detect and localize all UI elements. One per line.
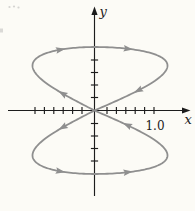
axis-lines-and-ticks — [8, 11, 184, 196]
scan-artifacts — [0, 5, 20, 32]
axes — [8, 7, 191, 197]
x-axis-label: x — [185, 112, 193, 127]
x-tick-label-1-0: 1.0 — [145, 119, 164, 133]
scan-dot — [8, 6, 10, 8]
curve-direction-arrowhead-icon — [57, 122, 69, 132]
scan-dot — [17, 6, 19, 8]
scan-edge-mark — [0, 29, 3, 33]
figure-eight-plot: y x 1.0 — [0, 0, 195, 211]
curve-direction-arrowhead-icon — [57, 88, 69, 98]
curve-direction-arrowhead-icon — [132, 85, 143, 95]
y-axis-arrowhead-icon — [91, 7, 97, 16]
scan-dot — [13, 5, 15, 7]
plot-canvas: y x 1.0 — [0, 0, 195, 211]
y-axis-label: y — [99, 4, 108, 19]
curve-direction-arrowhead-icon — [121, 120, 132, 130]
